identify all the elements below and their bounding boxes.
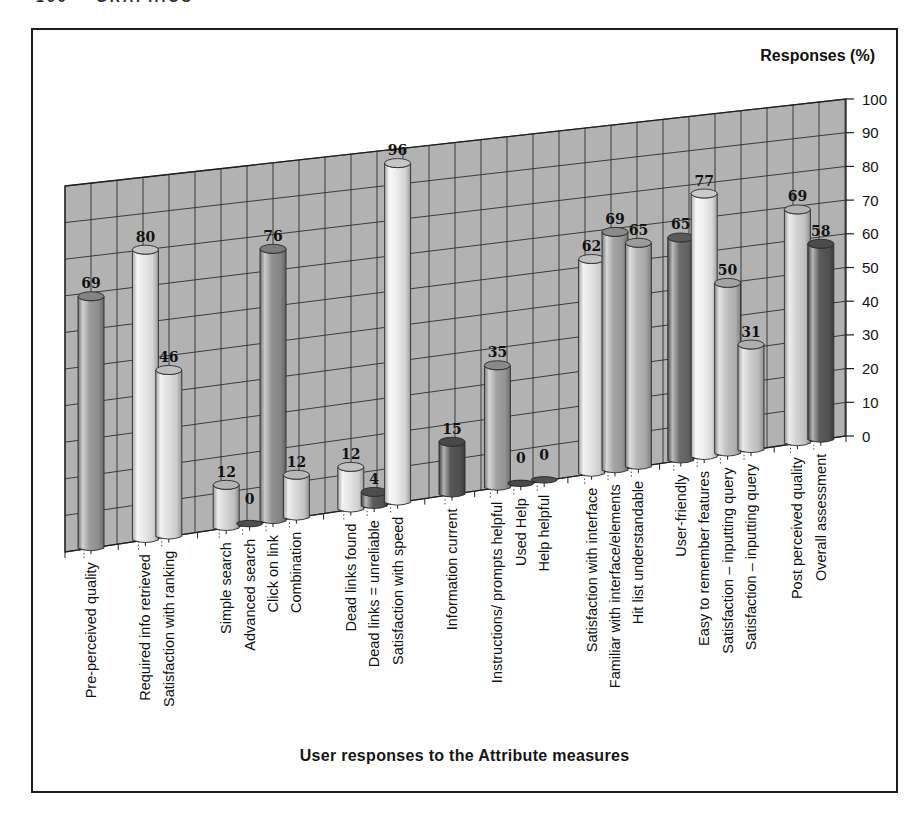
bar-value-label: 80	[136, 229, 156, 245]
cylinder-top	[625, 238, 651, 247]
cylinder-bar	[283, 475, 309, 520]
category-label: Hit list understandable	[630, 481, 646, 624]
cylinder-bar	[602, 232, 628, 473]
bar-value-label: 65	[629, 222, 648, 238]
bar-value-label: 12	[287, 454, 306, 470]
bar-value-label: 0	[539, 447, 549, 463]
cylinder-zero-disc	[237, 520, 263, 526]
category-label: Familiar with interface/elements	[607, 484, 623, 688]
cylinder-top	[132, 245, 158, 254]
category-label: Instructions/ prompts helpful	[489, 502, 505, 683]
figure-box: 0102030405060708090100698046120761212496…	[31, 28, 898, 793]
bar-value-label: 58	[811, 223, 830, 239]
cylinder-bar	[156, 370, 182, 539]
y-tick-label: 10	[862, 394, 879, 411]
category-label: Combination	[288, 532, 304, 613]
bar-value-label: 0	[516, 450, 526, 466]
cylinder-bar	[691, 194, 717, 460]
category-label: Required info retrieved	[137, 554, 153, 701]
x-axis-title: User responses to the Attribute measures	[33, 747, 896, 765]
cylinder-top	[691, 189, 717, 198]
scanned-page: { "page": { "header_partial": "166 GRAPH…	[0, 0, 923, 823]
y-tick-label: 90	[862, 124, 879, 141]
category-label: Information current	[444, 509, 460, 631]
y-tick-label: 70	[862, 192, 879, 209]
cylinder-top	[668, 233, 694, 242]
bar-value-label: 15	[442, 421, 461, 437]
chart-svg: 0102030405060708090100698046120761212496…	[33, 30, 896, 791]
cylinder-top	[439, 437, 465, 446]
category-label: Satisfaction – inputting query	[720, 467, 736, 654]
bar-value-label: 4	[369, 471, 379, 487]
category-label: Help helpful	[536, 495, 552, 572]
cylinder-top	[78, 292, 104, 301]
cylinder-bar	[668, 237, 694, 463]
category-label: Dead links found	[343, 524, 359, 632]
category-label: User-friendly	[673, 474, 689, 557]
cylinder-bar	[213, 485, 239, 531]
cylinder-top	[361, 487, 387, 496]
cylinder-bar	[579, 259, 605, 476]
y-axis-title: Responses (%)	[760, 47, 875, 65]
cylinder-bar	[78, 296, 104, 550]
bar-value-label: 65	[671, 216, 690, 232]
bar-value-label: 31	[741, 324, 760, 340]
cylinder-top	[602, 227, 628, 236]
bar-value-label: 12	[216, 464, 235, 480]
bar-value-label: 46	[159, 349, 178, 365]
bar-value-label: 96	[388, 142, 407, 158]
category-label: Used Help	[513, 498, 529, 566]
cylinder-bar	[738, 345, 764, 453]
y-tick-label: 80	[862, 158, 879, 175]
cylinder-zero-disc	[508, 480, 534, 486]
cylinder-bar	[625, 243, 651, 470]
cylinder-bar	[808, 244, 834, 443]
page-header-partial: 166 GRAPHICS	[36, 0, 194, 5]
y-tick-label: 40	[862, 293, 879, 310]
category-label: Satisfaction with interface	[584, 488, 600, 652]
cylinder-top	[156, 365, 182, 374]
cylinder-top	[715, 278, 741, 287]
y-tick-label: 0	[862, 428, 870, 445]
cylinder-top	[260, 244, 286, 253]
cylinder-bar	[439, 442, 465, 497]
bar-value-label: 35	[488, 344, 507, 360]
bar-value-label: 12	[341, 446, 360, 462]
cylinder-top	[484, 361, 510, 370]
cylinder-top	[738, 340, 764, 349]
cylinder-top	[213, 480, 239, 489]
cylinder-top	[579, 254, 605, 263]
category-label: Simple search	[218, 542, 234, 634]
y-tick-label: 60	[862, 225, 879, 242]
category-label: Post perceived quality	[789, 456, 805, 599]
cylinder-bar	[784, 209, 810, 445]
category-label: Click on link	[265, 534, 281, 612]
cylinder-top	[808, 239, 834, 248]
bar-value-label: 69	[81, 275, 100, 291]
bar-value-label: 77	[694, 173, 713, 189]
category-label: Overall assessment	[813, 454, 829, 581]
bar-value-label: 50	[718, 262, 738, 278]
y-tick-label: 50	[862, 259, 879, 276]
bar-value-label: 69	[788, 188, 807, 204]
category-label: Satisfaction with speed	[390, 517, 406, 665]
bar-value-label: 76	[263, 228, 282, 244]
bar-value-label: 69	[605, 211, 624, 227]
cylinder-bar	[132, 250, 158, 543]
category-label: Satisfaction with ranking	[161, 551, 177, 707]
category-label: Satisfaction – inputting query	[743, 463, 759, 650]
cylinder-bar	[338, 467, 364, 512]
cylinder-top	[385, 159, 411, 168]
y-tick-label: 30	[862, 326, 879, 343]
cylinder-top	[283, 470, 309, 479]
cylinder-top	[338, 462, 364, 471]
y-tick-label: 20	[862, 360, 879, 377]
category-label: Pre-perceived quality	[83, 561, 99, 698]
cylinder-bar	[715, 283, 741, 456]
bar-value-label: 0	[245, 491, 255, 507]
category-label: Easy to remember features	[696, 471, 712, 646]
cylinder-bar	[260, 249, 286, 524]
cylinder-bar	[385, 163, 411, 505]
bar-value-label: 62	[582, 238, 601, 254]
cylinder-bar	[484, 365, 510, 490]
